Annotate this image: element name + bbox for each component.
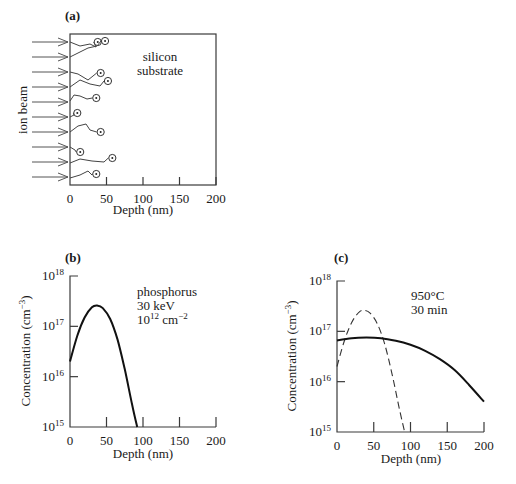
ion-trajectory — [70, 42, 96, 47]
ylabel-main: Concentration (cm — [284, 314, 299, 411]
x-tick-label: 200 — [474, 438, 494, 453]
ion-center-dot — [107, 80, 109, 82]
y-tick-label: 1018 — [309, 272, 332, 288]
x-tick-label: 200 — [206, 191, 226, 206]
ion-trajectory — [70, 171, 92, 178]
ylabel-close: ) — [18, 295, 33, 299]
ion-center-dot — [100, 72, 102, 74]
ion-trajectory — [70, 95, 92, 101]
panel-c-curves — [337, 310, 484, 432]
panel-a: (a) silicon substrate ion beam 050100150… — [15, 8, 226, 217]
ion-center-dot — [95, 173, 97, 175]
dose-unit: cm — [159, 312, 178, 327]
substrate-label-line2: substrate — [137, 63, 183, 78]
ion-trajectory — [70, 124, 97, 132]
panel-c: (c) 1015101610171018 050100150200 Concen… — [283, 250, 494, 466]
panel-b-x-ticks: 050100150200 — [67, 417, 226, 448]
ion-center-dot — [104, 40, 106, 42]
x-tick-label: 200 — [206, 433, 226, 448]
figure: (a) silicon substrate ion beam 050100150… — [0, 0, 516, 484]
ion-trajectory — [70, 80, 104, 87]
annotation-temperature: 950°C — [411, 288, 444, 303]
y-tick-label: 1018 — [42, 267, 65, 283]
dose-unit-exp: −2 — [178, 311, 188, 321]
y-tick-label: 1015 — [309, 423, 332, 439]
ylabel-exp: −3 — [17, 299, 27, 309]
implant-profile-line — [70, 305, 137, 427]
y-tick-label: 1017 — [42, 317, 65, 333]
ion-center-dot — [79, 151, 81, 153]
panel-b: (b) 1015101610171018 050100150200 Concen… — [17, 250, 226, 461]
annotation-time: 30 min — [411, 302, 448, 317]
annealed-profile-line — [337, 338, 484, 402]
x-tick-label: 50 — [367, 438, 380, 453]
ion-center-dot — [111, 157, 113, 159]
ion-center-dot — [97, 41, 99, 43]
x-tick-label: 0 — [334, 438, 341, 453]
ion-beam-arrows — [32, 38, 68, 181]
x-tick-label: 0 — [67, 191, 74, 206]
ion-center-dot — [76, 112, 78, 114]
panel-b-label: (b) — [65, 250, 81, 265]
panel-c-x-axis-label: Depth (nm) — [381, 451, 441, 466]
annotation-dose: 1012 cm−2 — [137, 311, 188, 327]
y-tick-label: 1016 — [309, 373, 332, 389]
x-tick-label: 50 — [100, 433, 113, 448]
y-tick-label: 1016 — [42, 368, 65, 384]
x-tick-label: 50 — [100, 191, 113, 206]
ion-trajectories — [70, 37, 116, 178]
ion-trajectory — [70, 72, 97, 80]
ion-center-dot — [100, 131, 102, 133]
ion-trajectory — [70, 147, 76, 152]
panel-c-label: (c) — [334, 250, 348, 265]
substrate-label-line1: silicon — [143, 49, 178, 64]
y-tick-label: 1015 — [42, 418, 65, 434]
ylabel-main: Concentration (cm — [18, 309, 33, 406]
ylabel-close: ) — [284, 300, 299, 304]
panel-c-x-ticks: 050100150200 — [334, 422, 494, 453]
ion-center-dot — [95, 97, 97, 99]
ion-trajectory — [70, 158, 108, 163]
ylabel-exp: −3 — [283, 304, 293, 314]
panel-c-y-axis-label: Concentration (cm−3) — [283, 300, 299, 411]
ion-beam-label: ion beam — [15, 86, 30, 134]
annotation-species: phosphorus — [137, 284, 197, 299]
dose-base: 10 — [137, 312, 150, 327]
panel-b-y-axis-label: Concentration (cm−3) — [17, 295, 33, 406]
panel-b-curves — [70, 305, 137, 427]
panel-a-label: (a) — [65, 8, 80, 23]
x-tick-label: 0 — [67, 433, 74, 448]
y-tick-label: 1017 — [309, 322, 332, 338]
as-implanted-profile-dashed — [337, 310, 405, 432]
dose-exp: 12 — [150, 311, 159, 321]
panel-a-x-axis-label: Depth (nm) — [113, 202, 173, 217]
panel-b-x-axis-label: Depth (nm) — [113, 446, 173, 461]
